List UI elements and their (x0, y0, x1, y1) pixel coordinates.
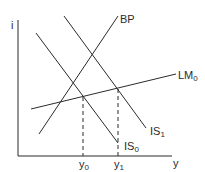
is1-label: IS1 (150, 126, 165, 139)
lm0-curve (31, 74, 176, 109)
horizontal-axis-label: y (173, 158, 179, 169)
bp-curve (39, 16, 118, 134)
bp-label: BP (120, 14, 135, 25)
diagram-canvas (0, 0, 205, 172)
is0-label: IS0 (124, 141, 139, 154)
lm0-label: LM0 (178, 70, 198, 83)
is-lm-bp-diagram: i BP LM0 IS1 IS0 y0 y1 y (0, 0, 205, 172)
is1-curve (64, 16, 146, 128)
vertical-axis-label: i (11, 20, 13, 31)
y1-tick-label: y1 (114, 159, 124, 172)
is0-curve (36, 33, 118, 143)
y0-tick-label: y0 (79, 159, 89, 172)
